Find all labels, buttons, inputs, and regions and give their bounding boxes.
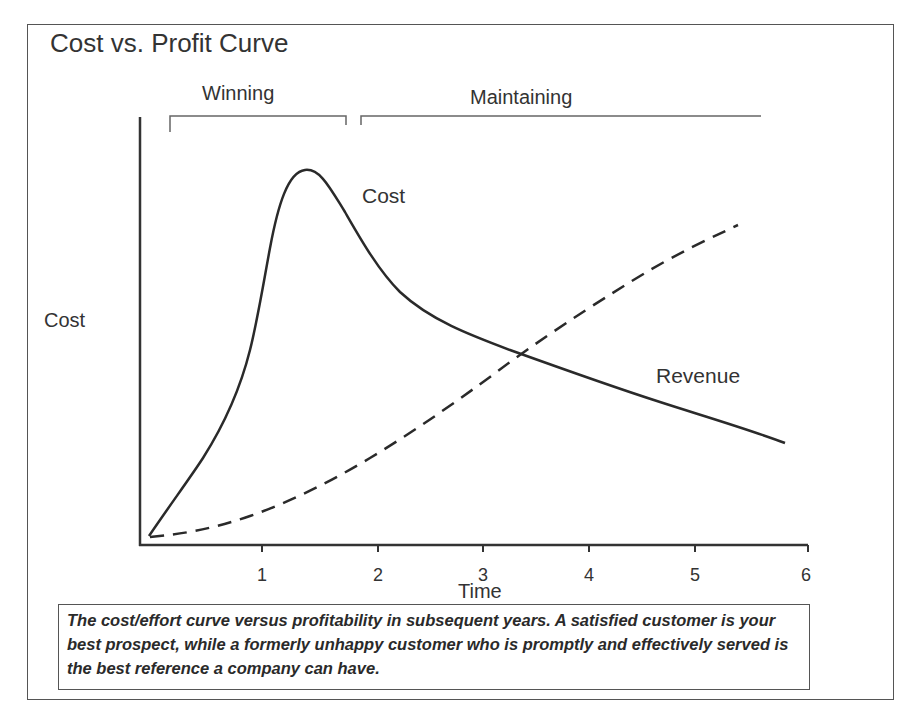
revenue-curve — [150, 225, 738, 537]
maintaining-bracket — [361, 116, 761, 125]
winning-bracket — [170, 116, 346, 132]
cost-curve — [149, 170, 785, 536]
figure-caption: The cost/effort curve versus profitabili… — [58, 604, 810, 690]
